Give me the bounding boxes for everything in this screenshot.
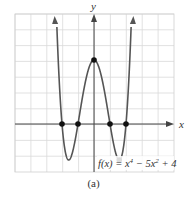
data-point <box>91 57 97 63</box>
data-point <box>59 121 65 127</box>
function-graph: x y f(x) = x4 − 5x2 + 4 <box>0 0 187 197</box>
curve-arrow-icon <box>52 16 58 24</box>
data-point <box>75 121 81 127</box>
y-axis-arrow-icon <box>91 14 97 22</box>
figure-caption: (a) <box>0 177 187 189</box>
data-point <box>123 121 129 127</box>
x-axis-label: x <box>178 118 184 130</box>
x-axis-arrow-icon <box>166 121 174 127</box>
y-axis-label: y <box>90 0 96 12</box>
curve-arrow-icon <box>130 16 136 24</box>
data-point <box>107 121 113 127</box>
function-label: f(x) = x4 − 5x2 + 4 <box>98 157 177 170</box>
